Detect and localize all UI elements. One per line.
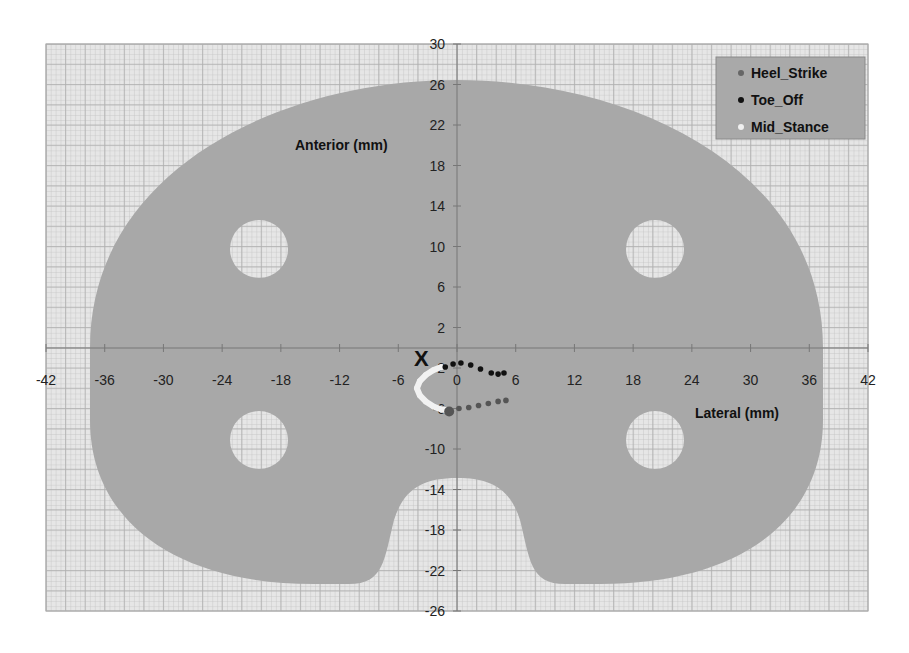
data-point	[503, 398, 509, 404]
data-point	[495, 399, 501, 405]
y-tick-label: 10	[429, 239, 445, 255]
y-tick-label: -26	[425, 603, 445, 619]
data-point	[439, 407, 445, 413]
x-tick-label: -18	[271, 372, 291, 388]
x-tick-label: -24	[212, 372, 232, 388]
x-axis-label: Lateral (mm)	[695, 405, 779, 421]
y-tick-label: 6	[437, 279, 445, 295]
data-point	[417, 393, 423, 399]
data-point	[423, 399, 429, 405]
data-point	[431, 367, 437, 373]
x-tick-label: 18	[625, 372, 641, 388]
legend-marker-mid-stance	[738, 124, 744, 130]
y-tick-label: -10	[425, 441, 445, 457]
x-tick-label: 6	[512, 372, 520, 388]
y-tick-label: -14	[425, 482, 445, 498]
legend-label-toe-off: Toe_Off	[751, 92, 803, 108]
data-point	[468, 362, 474, 368]
y-tick-label: -22	[425, 563, 445, 579]
data-point	[501, 370, 507, 376]
data-point	[486, 401, 492, 407]
x-tick-label: 30	[743, 372, 759, 388]
chart: -42-36-30-24-18-12-606121824303642 30262…	[0, 0, 909, 653]
x-tick-label: -36	[95, 372, 115, 388]
x-tick-label: -42	[36, 372, 56, 388]
y-tick-label: 22	[429, 117, 445, 133]
data-point	[495, 371, 501, 377]
data-point	[423, 372, 429, 378]
y-tick-label: -18	[425, 522, 445, 538]
x-tick-label: 12	[567, 372, 583, 388]
data-point	[450, 361, 456, 367]
data-point	[456, 406, 462, 412]
data-point	[478, 366, 484, 372]
data-point	[466, 405, 472, 411]
origin-marker: X	[414, 346, 429, 371]
x-tick-label: 36	[801, 372, 817, 388]
y-tick-label: 2	[437, 320, 445, 336]
data-point	[488, 370, 494, 376]
data-point	[442, 364, 448, 370]
x-tick-label: -30	[153, 372, 173, 388]
x-tick-label: 24	[684, 372, 700, 388]
legend: Heel_Strike Toe_Off Mid_Stance	[716, 57, 865, 139]
y-tick-label: 26	[429, 77, 445, 93]
y-axis-label: Anterior (mm)	[295, 137, 388, 153]
legend-label-heel-strike: Heel_Strike	[751, 65, 827, 81]
data-point	[476, 403, 482, 409]
x-tick-label: 42	[860, 372, 876, 388]
x-tick-label: 0	[453, 372, 461, 388]
x-tick-label: -12	[329, 372, 349, 388]
legend-marker-toe-off	[738, 97, 744, 103]
x-tick-label: -6	[392, 372, 405, 388]
y-tick-label: 14	[429, 198, 445, 214]
data-point	[458, 360, 464, 366]
y-tick-label: 18	[429, 158, 445, 174]
legend-label-mid-stance: Mid_Stance	[751, 119, 829, 135]
y-tick-label: 30	[429, 36, 445, 52]
data-point	[431, 404, 437, 410]
data-point	[414, 385, 420, 391]
data-point	[444, 407, 454, 417]
legend-marker-heel-strike	[738, 70, 744, 76]
data-point	[417, 378, 423, 384]
